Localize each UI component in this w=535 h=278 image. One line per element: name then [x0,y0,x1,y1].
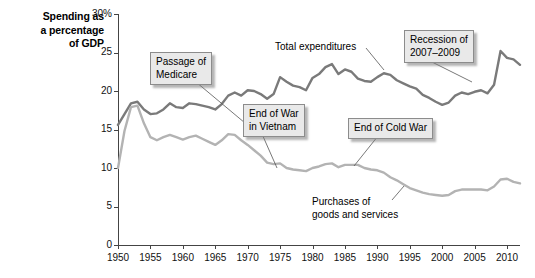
leader-line-total-expenditures [366,48,384,70]
annotation-total-expenditures: Total expenditures [275,41,356,54]
annotation-end-of-war-in-vietnam: End of War in Vietnam [243,104,305,137]
x-tick-label: 1995 [394,252,426,263]
annotation-passage-of-medicare: Passage of Medicare [150,52,212,85]
y-tick-label: 20 [66,85,112,96]
x-tick-label: 2005 [459,252,491,263]
leader-line-end-of-cold-war [354,136,378,166]
y-tick-label: 15 [66,123,112,134]
annotation-end-of-cold-war: End of Cold War [348,118,433,139]
y-tick-label: 0 [66,239,112,250]
x-tick-label: 1985 [329,252,361,263]
x-tick-label: 1975 [264,252,296,263]
x-tick-label: 2010 [491,252,523,263]
y-tick-label: 25 [66,46,112,57]
y-tick-label: 5 [66,200,112,211]
x-tick-label: 1960 [167,252,199,263]
x-tick-label: 1955 [134,252,166,263]
x-tick-label: 1950 [102,252,134,263]
annotation-recession-of-2007-2009: Recession of 2007–2009 [404,30,474,63]
x-tick-label: 1990 [361,252,393,263]
series-line-purchases-of-goods-and-services [118,106,520,196]
x-tick-label: 2000 [426,252,458,263]
x-tick-label: 1980 [297,252,329,263]
y-tick-label: 10 [66,162,112,173]
leader-line-recession-of-2007-2009 [432,62,472,82]
chart-container: Spending as a percentage of GDP 05101520… [0,0,535,278]
x-tick-label: 1970 [232,252,264,263]
y-tick-label: 30% [66,8,112,19]
annotation-purchases-of-goods-and-services: Purchases of goods and services [312,196,398,221]
x-tick-label: 1965 [199,252,231,263]
